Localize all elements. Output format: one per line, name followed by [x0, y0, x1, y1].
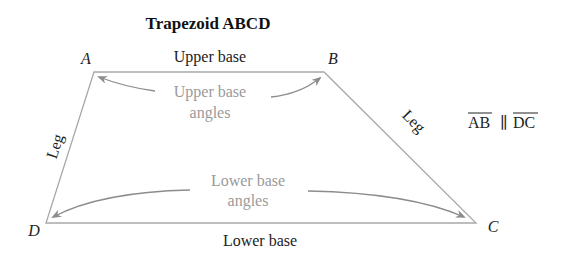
vertex-c-label: C — [488, 218, 499, 235]
vertex-a-label: A — [80, 50, 91, 67]
upper-angles-label-line1: Upper base — [174, 83, 246, 101]
trapezoid-diagram: Trapezoid ABCD A B C D Upper base Lower … — [0, 0, 579, 265]
segment-ab: AB — [468, 114, 490, 131]
lower-angles-label-line2: angles — [228, 192, 269, 210]
diagram-title: Trapezoid ABCD — [146, 14, 271, 33]
vertex-b-label: B — [328, 50, 338, 67]
lower-left-angle-arrow — [53, 190, 190, 217]
left-leg-label: Leg — [43, 132, 68, 161]
upper-angles-label-line2: angles — [190, 104, 231, 122]
upper-base-label: Upper base — [174, 48, 246, 66]
lower-base-label: Lower base — [223, 232, 297, 249]
segment-dc: DC — [513, 114, 535, 131]
parallel-statement: AB ∥ DC — [468, 113, 538, 131]
upper-left-angle-arrow — [99, 77, 155, 91]
right-leg-label: Leg — [398, 106, 428, 136]
vertex-d-label: D — [27, 222, 40, 239]
parallel-symbol: ∥ — [500, 114, 507, 131]
upper-right-angle-arrow — [271, 78, 320, 97]
lower-right-angle-arrow — [308, 191, 464, 217]
lower-angles-label-line1: Lower base — [211, 172, 285, 189]
